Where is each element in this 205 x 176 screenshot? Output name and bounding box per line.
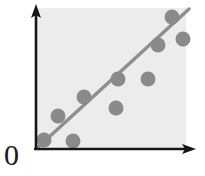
plot-canvas — [0, 0, 205, 176]
data-point — [51, 109, 66, 124]
data-point — [111, 72, 126, 87]
data-point — [77, 90, 92, 105]
scatter-plot-figure: 0 — [0, 0, 205, 176]
data-point — [176, 32, 191, 47]
data-point — [165, 10, 180, 25]
data-point — [109, 101, 124, 116]
data-point — [151, 38, 166, 53]
data-point — [66, 134, 81, 149]
origin-tick-label: 0 — [4, 136, 19, 174]
data-point — [141, 72, 156, 87]
data-point — [37, 133, 52, 148]
